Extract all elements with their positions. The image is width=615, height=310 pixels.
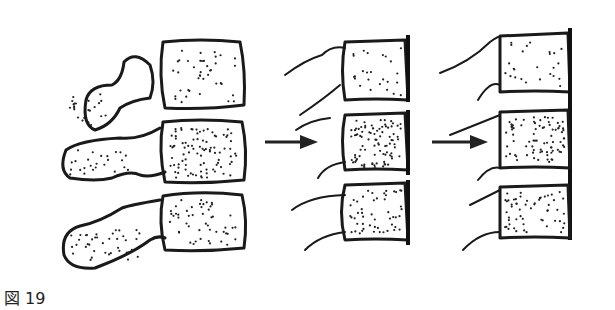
figure: 図 19 <box>0 0 615 310</box>
panel-stage-3 <box>440 28 570 250</box>
panel-stage-1 <box>63 40 246 268</box>
arrow-2 <box>432 135 488 149</box>
arrow-1 <box>265 135 318 149</box>
vertebrae-illustration <box>0 0 615 310</box>
figure-caption: 図 19 <box>4 285 45 309</box>
stipple-dots <box>69 41 565 261</box>
